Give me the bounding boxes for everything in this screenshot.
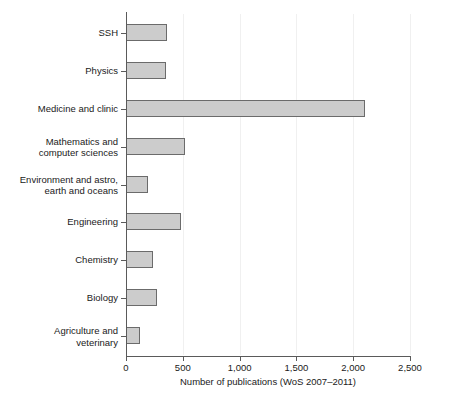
y-axis-category-label: Mathematics andcomputer sciences	[0, 135, 118, 158]
x-axis-tick-label: 2,000	[341, 362, 365, 373]
x-axis-tick-label: 0	[123, 362, 128, 373]
y-axis-category-label: Chemistry	[0, 255, 118, 267]
category-label-line: Chemistry	[0, 255, 118, 267]
bar-row	[126, 251, 410, 268]
bar[interactable]	[126, 251, 153, 268]
bar[interactable]	[126, 138, 185, 155]
x-axis-tick-label: 2,500	[398, 362, 422, 373]
y-axis-category-label: Medicine and clinic	[0, 103, 118, 115]
bar-chart-figure: SSHPhysicsMedicine and clinicMathematics…	[0, 0, 449, 405]
bar-row	[126, 327, 410, 344]
bar-row	[126, 176, 410, 193]
bar-row	[126, 62, 410, 79]
y-axis-tick	[121, 185, 126, 186]
category-label-line: Biology	[0, 292, 118, 304]
category-label-line: Physics	[0, 65, 118, 77]
bar-row	[126, 24, 410, 41]
x-axis-tick-label: 500	[175, 362, 191, 373]
y-axis-category-label: Environment and astro,earth and oceans	[0, 173, 118, 196]
x-axis-tick	[410, 356, 411, 361]
x-axis-tick	[296, 356, 297, 361]
category-label-line: Medicine and clinic	[0, 103, 118, 115]
bar[interactable]	[126, 327, 140, 344]
category-label-line: veterinary	[0, 336, 118, 348]
bar[interactable]	[126, 100, 365, 117]
category-label-line: SSH	[0, 27, 118, 39]
gridline	[410, 14, 411, 355]
y-axis-tick	[121, 222, 126, 223]
x-axis-tick	[183, 356, 184, 361]
bar[interactable]	[126, 213, 181, 230]
plot-area	[126, 14, 410, 355]
y-axis-category-label: Physics	[0, 65, 118, 77]
category-label-line: Mathematics and	[0, 135, 118, 147]
y-axis-tick	[121, 109, 126, 110]
y-axis-line	[126, 12, 127, 357]
bar[interactable]	[126, 24, 167, 41]
bar[interactable]	[126, 176, 148, 193]
category-label-line: computer sciences	[0, 147, 118, 159]
y-axis-tick	[121, 260, 126, 261]
x-axis-title: Number of publications (WoS 2007–2011)	[126, 376, 410, 387]
bar-row	[126, 289, 410, 306]
y-axis-category-label: Agriculture andveterinary	[0, 325, 118, 348]
x-axis-tick	[240, 356, 241, 361]
y-axis-tick	[121, 336, 126, 337]
bar-row	[126, 100, 410, 117]
bar-row	[126, 138, 410, 155]
category-label-line: Engineering	[0, 217, 118, 229]
x-axis-tick	[126, 356, 127, 361]
category-label-line: Agriculture and	[0, 325, 118, 337]
x-axis-tick-label: 1,000	[228, 362, 252, 373]
y-axis-tick	[121, 147, 126, 148]
y-axis-tick	[121, 33, 126, 34]
bar[interactable]	[126, 62, 166, 79]
x-axis-tick-label: 1,500	[285, 362, 309, 373]
x-axis-tick	[353, 356, 354, 361]
x-axis-line	[126, 356, 411, 357]
bar[interactable]	[126, 289, 157, 306]
y-axis-tick	[121, 298, 126, 299]
bar-row	[126, 213, 410, 230]
y-axis-category-label: SSH	[0, 27, 118, 39]
y-axis-category-label: Engineering	[0, 217, 118, 229]
category-label-line: Environment and astro,	[0, 173, 118, 185]
y-axis-category-label: Biology	[0, 292, 118, 304]
category-label-line: earth and oceans	[0, 185, 118, 197]
y-axis-tick	[121, 71, 126, 72]
